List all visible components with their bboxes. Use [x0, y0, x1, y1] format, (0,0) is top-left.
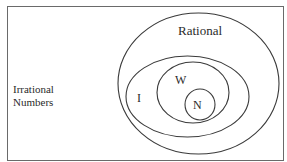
- irrational-label-line1: Irrational: [13, 84, 54, 95]
- venn-diagram: Rational Irrational Numbers I W N: [0, 0, 287, 162]
- whole-ellipse: [157, 62, 229, 123]
- rational-label: Rational: [178, 24, 222, 37]
- venn-svg: [0, 0, 287, 162]
- integers-label: I: [137, 92, 141, 104]
- irrational-label-line2: Numbers: [13, 97, 53, 108]
- whole-label: W: [175, 74, 186, 86]
- natural-label: N: [193, 99, 202, 111]
